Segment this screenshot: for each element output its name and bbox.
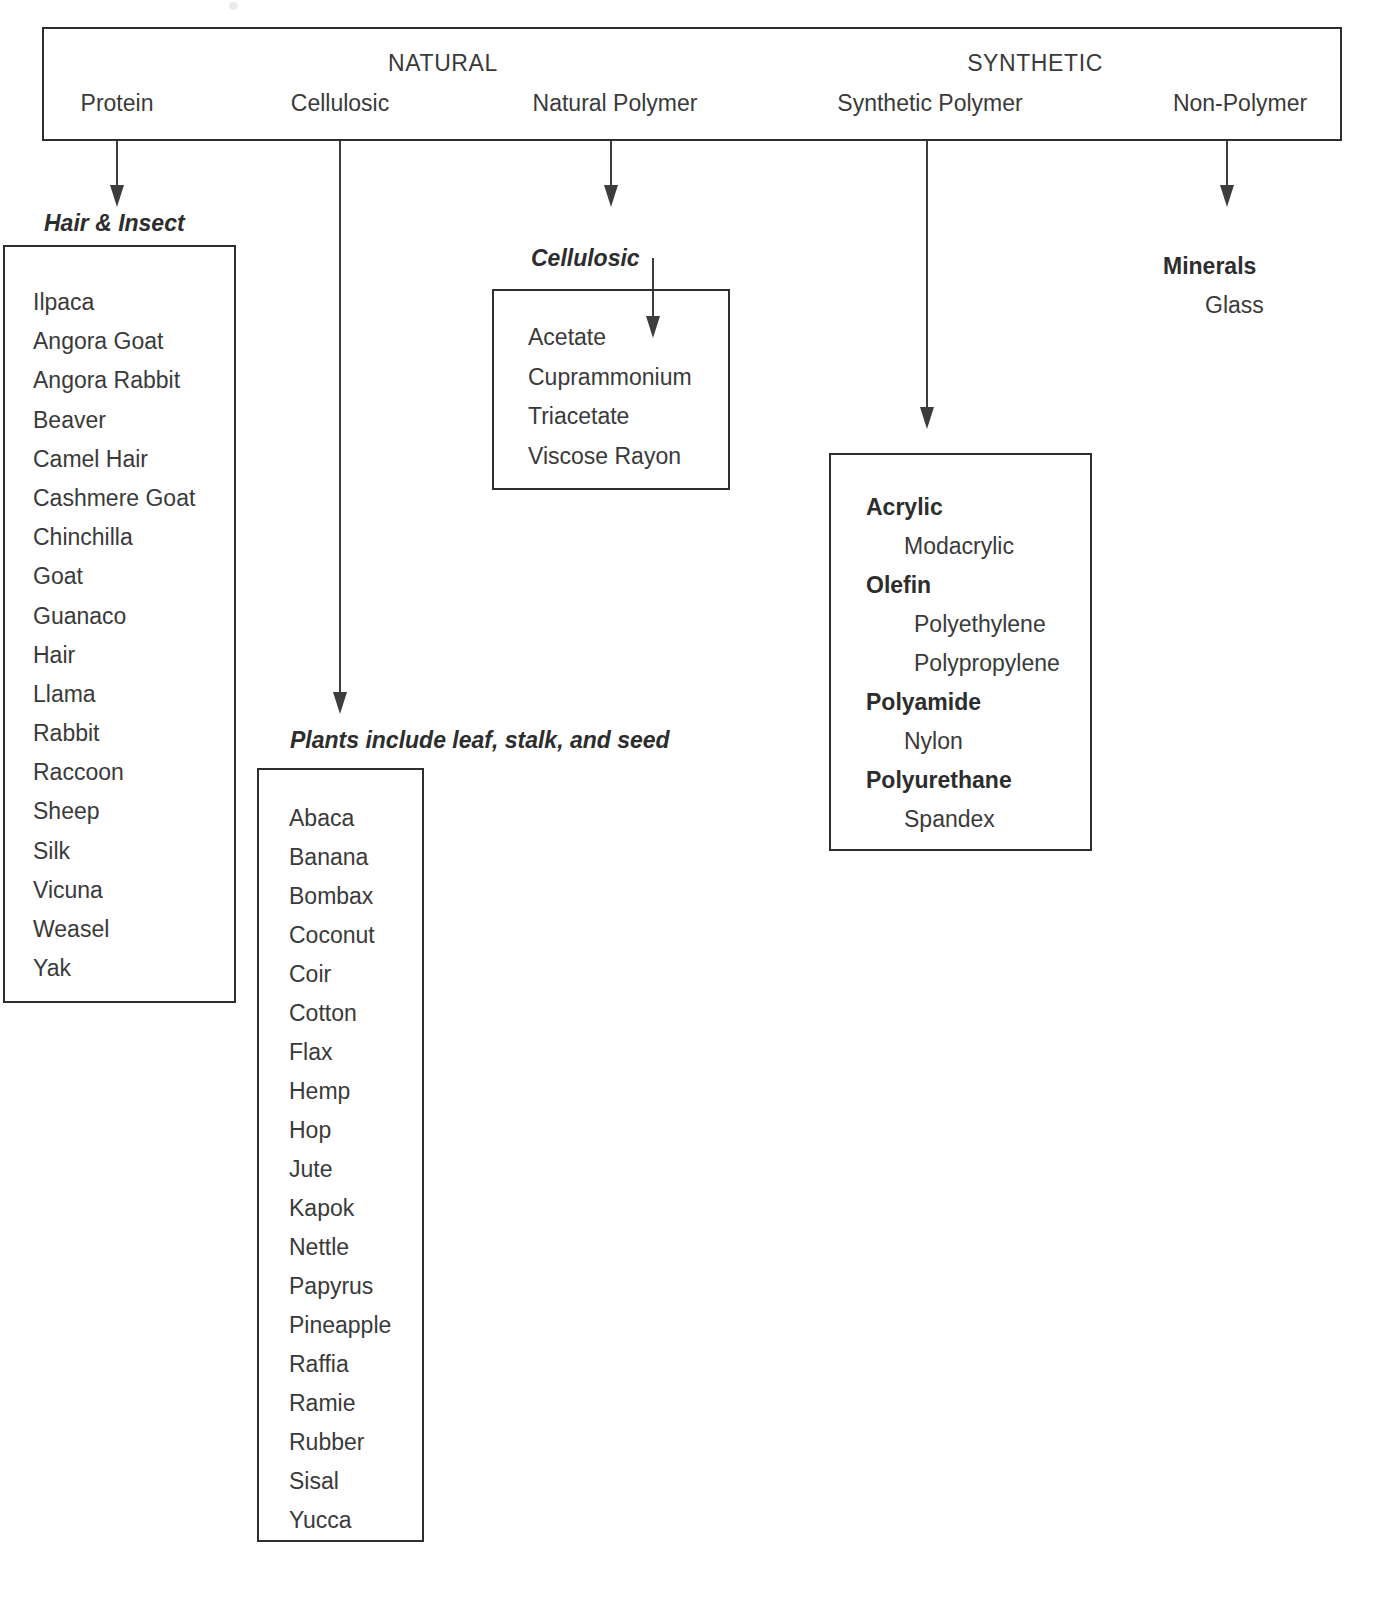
list-item[interactable]: Rabbit: [33, 714, 233, 753]
list-item[interactable]: Sheep: [33, 792, 233, 831]
fiber-classification-diagram: NATURAL SYNTHETIC Protein Cellulosic Nat…: [0, 0, 1386, 1612]
list-item[interactable]: Sisal: [289, 1462, 429, 1501]
list-item[interactable]: Cuprammonium: [528, 358, 728, 398]
list-item[interactable]: Nylon: [866, 722, 1091, 761]
header-major-natural: NATURAL: [268, 50, 618, 77]
list-item[interactable]: Nettle: [289, 1228, 429, 1267]
list-item[interactable]: Acetate: [528, 318, 728, 358]
header-column-natural-polymer[interactable]: Natural Polymer: [510, 90, 720, 117]
connector-non-polymer-line: [1226, 141, 1228, 189]
list-item[interactable]: Pineapple: [289, 1306, 429, 1345]
header-major-synthetic: SYNTHETIC: [860, 50, 1210, 77]
connector-cellulosic-line: [339, 141, 341, 696]
header-box: [42, 27, 1342, 141]
connector-cellulosic-arrowhead: [333, 692, 347, 714]
connector-synthetic-polymer-line: [926, 141, 928, 411]
list-item[interactable]: Olefin: [866, 566, 1091, 605]
list-item[interactable]: Viscose Rayon: [528, 437, 728, 477]
synthetic-polymer-list: AcrylicModacrylicOlefinPolyethylenePolyp…: [866, 488, 1091, 839]
list-item[interactable]: Modacrylic: [866, 527, 1091, 566]
list-item[interactable]: Rubber: [289, 1423, 429, 1462]
list-item[interactable]: Yak: [33, 949, 233, 988]
connector-non-polymer-arrowhead: [1220, 185, 1234, 207]
list-item[interactable]: Vicuna: [33, 871, 233, 910]
list-item[interactable]: Banana: [289, 838, 429, 877]
caption-hair-and-insect: Hair & Insect: [44, 210, 185, 237]
hair-and-insect-list: IlpacaAngora GoatAngora RabbitBeaverCame…: [33, 283, 233, 988]
list-item[interactable]: Ilpaca: [33, 283, 233, 322]
list-item[interactable]: Guanaco: [33, 597, 233, 636]
list-item[interactable]: Ramie: [289, 1384, 429, 1423]
connector-natural-polymer-arrowhead: [604, 185, 618, 207]
scan-artifact-speck: [229, 2, 238, 10]
list-item[interactable]: Hemp: [289, 1072, 429, 1111]
list-item[interactable]: Beaver: [33, 401, 233, 440]
header-column-non-polymer[interactable]: Non-Polymer: [1130, 90, 1350, 117]
list-item[interactable]: Goat: [33, 557, 233, 596]
list-item[interactable]: Angora Goat: [33, 322, 233, 361]
list-item[interactable]: Silk: [33, 832, 233, 871]
list-item[interactable]: Raffia: [289, 1345, 429, 1384]
list-item[interactable]: Cashmere Goat: [33, 479, 233, 518]
list-item[interactable]: Polyurethane: [866, 761, 1091, 800]
connector-synthetic-polymer-arrowhead: [920, 407, 934, 429]
minerals-glass-item: Glass: [1205, 292, 1264, 319]
list-item[interactable]: Polyethylene: [866, 605, 1091, 644]
list-item[interactable]: Yucca: [289, 1501, 429, 1540]
list-item[interactable]: Bombax: [289, 877, 429, 916]
connector-protein-arrowhead: [110, 185, 124, 207]
list-item[interactable]: Angora Rabbit: [33, 361, 233, 400]
list-item[interactable]: Coconut: [289, 916, 429, 955]
minerals-heading: Minerals: [1163, 253, 1256, 280]
caption-cellulosic-manufactured: Cellulosic: [531, 245, 640, 272]
list-item[interactable]: Llama: [33, 675, 233, 714]
header-column-synthetic-polymer[interactable]: Synthetic Polymer: [820, 90, 1040, 117]
list-item[interactable]: Acrylic: [866, 488, 1091, 527]
caption-plants: Plants include leaf, stalk, and seed: [290, 727, 670, 754]
list-item[interactable]: Spandex: [866, 800, 1091, 839]
list-item[interactable]: Chinchilla: [33, 518, 233, 557]
connector-protein-line: [116, 141, 118, 189]
list-item[interactable]: Flax: [289, 1033, 429, 1072]
list-item[interactable]: Jute: [289, 1150, 429, 1189]
list-item[interactable]: Hop: [289, 1111, 429, 1150]
list-item[interactable]: Polyamide: [866, 683, 1091, 722]
list-item[interactable]: Camel Hair: [33, 440, 233, 479]
list-item[interactable]: Papyrus: [289, 1267, 429, 1306]
cellulosic-list: AcetateCuprammoniumTriacetateViscose Ray…: [528, 318, 728, 476]
list-item[interactable]: Polypropylene: [866, 644, 1091, 683]
list-item[interactable]: Hair: [33, 636, 233, 675]
connector-natural-polymer-line: [610, 141, 612, 189]
list-item[interactable]: Abaca: [289, 799, 429, 838]
list-item[interactable]: Raccoon: [33, 753, 233, 792]
list-item[interactable]: Weasel: [33, 910, 233, 949]
list-item[interactable]: Triacetate: [528, 397, 728, 437]
header-column-protein[interactable]: Protein: [17, 90, 217, 117]
plants-list: AbacaBananaBombaxCoconutCoirCottonFlaxHe…: [289, 799, 429, 1540]
list-item[interactable]: Cotton: [289, 994, 429, 1033]
list-item[interactable]: Coir: [289, 955, 429, 994]
header-column-cellulosic[interactable]: Cellulosic: [240, 90, 440, 117]
list-item[interactable]: Kapok: [289, 1189, 429, 1228]
